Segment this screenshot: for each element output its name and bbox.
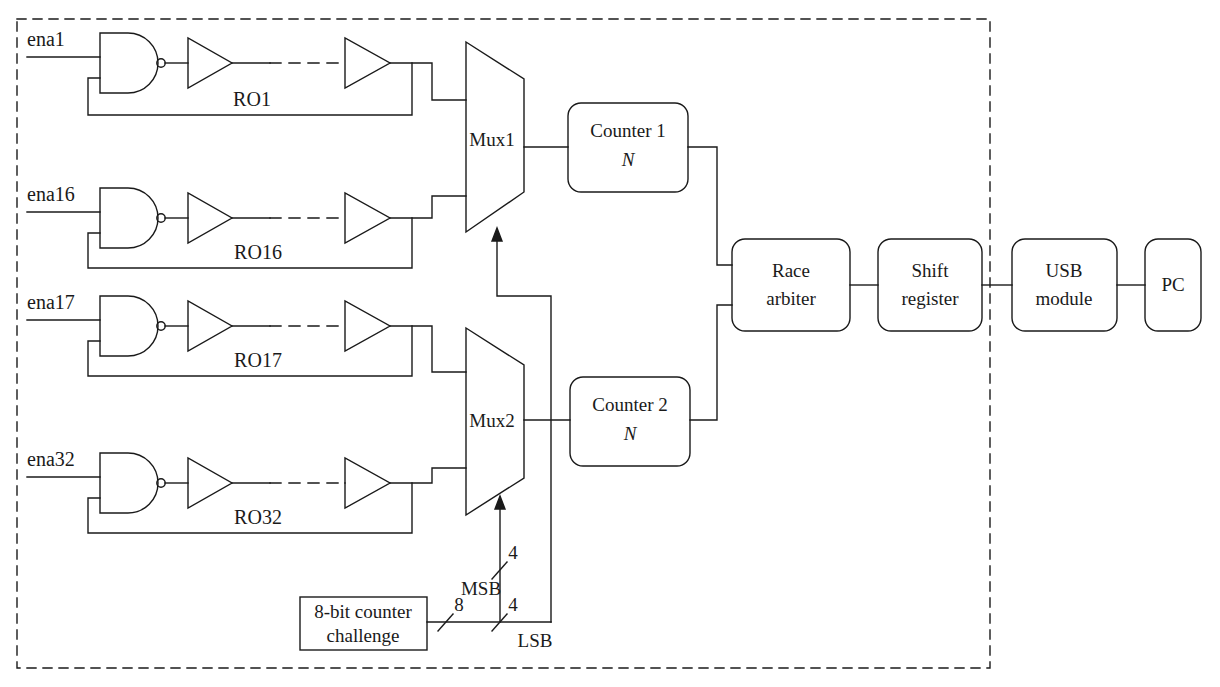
challenge-line1: 8-bit counter (314, 601, 412, 623)
counter1-to-arbiter (688, 147, 732, 265)
counter2-label: Counter 2 (592, 394, 667, 416)
usb-module-box (1012, 239, 1117, 331)
nand-gate-ro16 (100, 188, 158, 248)
pc-label: PC (1161, 274, 1184, 296)
ro16-to-mux1 (390, 196, 466, 218)
shift-register-box (878, 239, 982, 331)
inverter-ro32-a (188, 458, 232, 508)
lsb-label: LSB (518, 630, 553, 652)
ro1-to-mux1 (390, 63, 466, 100)
ro32-label: RO32 (234, 506, 282, 529)
counter1-box (568, 103, 688, 192)
diagram-svg (0, 0, 1220, 687)
ena16-label: ena16 (27, 183, 75, 206)
inverter-ro32-b2 (345, 458, 390, 508)
inverter-ro1-b (345, 38, 390, 88)
fpga-boundary (17, 19, 990, 668)
inverter-ro17-a (188, 301, 232, 351)
bus-width-lsb-label: 4 (508, 594, 518, 616)
bus-width-msb-label: 4 (508, 542, 518, 564)
mux2-select-arrowhead (495, 496, 505, 509)
shift-register-line2: register (902, 288, 959, 310)
counter1-sublabel: N (622, 149, 635, 171)
mux1-label: Mux1 (469, 129, 514, 151)
diagram-canvas: ena1 ena16 ena17 ena32 RO1 RO16 RO17 RO3… (0, 0, 1220, 687)
mux2-label: Mux2 (469, 410, 514, 432)
nand-gate-ro17 (100, 296, 158, 356)
inverter-ro1-a (188, 38, 232, 88)
msb-label: MSB (461, 578, 501, 600)
challenge-line2: challenge (327, 625, 400, 647)
counter2-sublabel: N (624, 423, 637, 445)
counter1-label: Counter 1 (590, 120, 665, 142)
usb-module-line1: USB (1046, 260, 1083, 282)
inverter-ro16-a (188, 193, 232, 243)
nand-gate-ro1 (100, 33, 158, 93)
counter2-to-arbiter (690, 305, 732, 420)
mux1-select-arrowhead (492, 228, 502, 241)
ro17-to-mux2 (390, 326, 466, 372)
shift-register-line1: Shift (912, 260, 949, 282)
inverter-ro16-b (345, 193, 390, 243)
nand-gate-ro32 (100, 453, 158, 513)
inverter-ro17-b (345, 301, 390, 351)
ro1-label: RO1 (233, 88, 271, 111)
race-arbiter-line2: arbiter (766, 288, 816, 310)
ena32-label: ena32 (27, 448, 75, 471)
ro32-to-mux2 (390, 468, 466, 483)
race-arbiter-line1: Race (772, 260, 810, 282)
ro16-label: RO16 (234, 241, 282, 264)
ena1-label: ena1 (27, 28, 65, 51)
counter2-box (570, 377, 690, 466)
ena17-label: ena17 (27, 291, 75, 314)
ro17-label: RO17 (234, 349, 282, 372)
usb-module-line2: module (1036, 288, 1093, 310)
race-arbiter-box (732, 239, 850, 331)
